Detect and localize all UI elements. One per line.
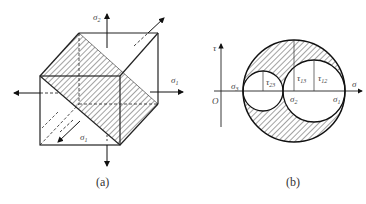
sigma3-label: σ3 — [231, 81, 238, 92]
origin-label: O — [212, 96, 219, 106]
right-stress-label: σ1 — [171, 75, 178, 86]
inclined-plane — [40, 33, 158, 145]
caption-b: (b) — [286, 175, 300, 189]
tau-axis-label: τ — [213, 43, 217, 53]
sigma3-arrow-back — [134, 18, 164, 46]
mohr-circle-figure: τ σ O σ3 σ2 σ1 τ23 τ13 τ12 (b) — [212, 40, 362, 189]
top-stress-label: σ2 — [93, 12, 100, 23]
sigma-axis-label: σ — [352, 79, 357, 89]
cube-figure: σ2 σ1 σ1 (a) — [14, 12, 183, 189]
caption-a: (a) — [96, 175, 109, 189]
sigma3-arrow-front — [42, 112, 80, 142]
stress-diagram: σ2 σ1 σ1 (a) τ σ O σ3 σ2 σ1 τ23 τ13 τ1 — [0, 0, 366, 204]
bottom-stress-label: σ1 — [80, 132, 87, 143]
